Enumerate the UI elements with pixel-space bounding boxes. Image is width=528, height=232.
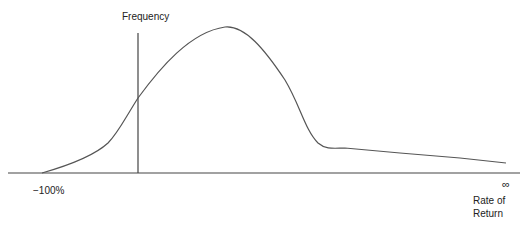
x-max-label: ∞ <box>502 178 510 190</box>
x-axis-label: Rate of Return <box>473 194 505 220</box>
x-axis-label-line1: Rate of <box>473 194 505 207</box>
frequency-curve <box>42 27 506 173</box>
y-axis-label: Frequency <box>122 11 169 23</box>
x-min-label: −100% <box>33 185 64 197</box>
distribution-diagram <box>0 0 528 232</box>
x-axis-label-line2: Return <box>473 207 505 220</box>
